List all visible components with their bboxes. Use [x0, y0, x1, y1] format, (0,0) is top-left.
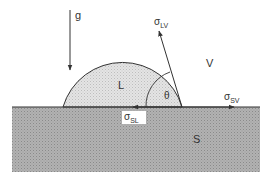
contact-angle-label: θ [164, 90, 170, 101]
sigma-sv-label: σSV [224, 91, 240, 104]
sigma-lv-label: σLV [154, 16, 169, 29]
contact-angle-diagram: g L V S θ σLV σSL σSV [0, 0, 272, 184]
liquid-label: L [118, 79, 124, 91]
solid-label: S [193, 133, 200, 145]
gravity-label: g [75, 9, 81, 21]
vapor-label: V [206, 57, 214, 69]
